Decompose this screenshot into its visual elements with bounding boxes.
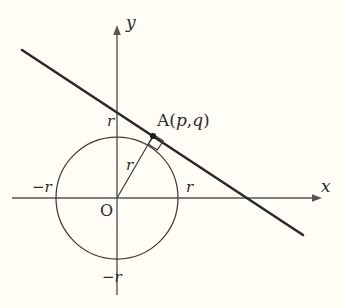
y-axis-label: y [126, 14, 136, 31]
origin-label: O [100, 203, 113, 219]
radius-segment-label: r [126, 158, 133, 173]
y-axis-arrowhead [113, 25, 121, 35]
radius-segment [117, 136, 153, 198]
y-intercept-top-label: r [107, 114, 114, 129]
x-intercept-right-label: r [186, 180, 193, 195]
point-a-suffix: ) [203, 110, 210, 130]
point-a-q: q [192, 110, 203, 130]
y-intercept-bottom-label: −r [102, 270, 122, 285]
point-a-label: A(p,q) [157, 112, 210, 129]
x-axis-label: x [321, 178, 331, 195]
figure-canvas [0, 0, 342, 308]
x-intercept-left-label: −r [32, 180, 52, 195]
point-a-prefix: A( [157, 110, 176, 130]
geometry-figure: y x O r −r r −r r A(p,q) [0, 0, 342, 308]
point-a-p: p [176, 110, 187, 130]
point-a-dot [150, 133, 156, 139]
